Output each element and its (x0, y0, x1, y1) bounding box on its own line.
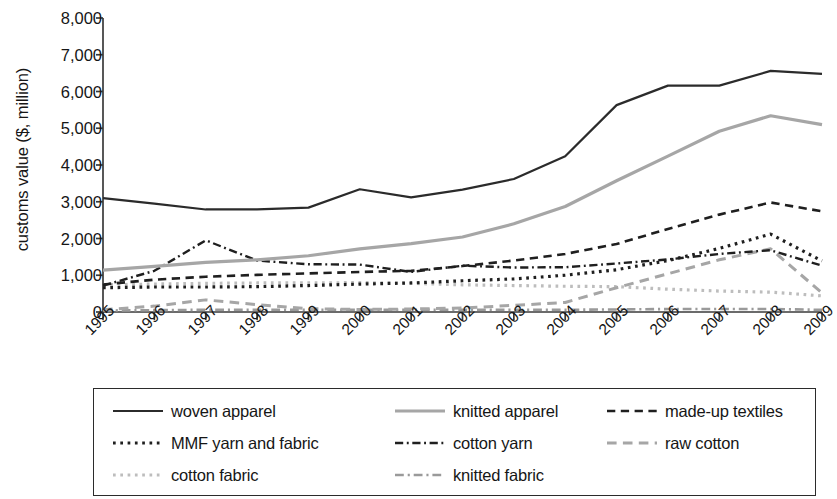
legend-row: MMF yarn and fabriccotton yarnraw cotton (94, 427, 815, 459)
x-axis-tick-label: 1997 (184, 302, 221, 339)
x-axis-tick-labels: 1995199619971998199920002001200220032004… (0, 0, 827, 390)
legend-label: knitted apparel (453, 402, 558, 421)
x-axis-tick-label: 2009 (800, 302, 837, 339)
legend-swatch-dashdot (394, 436, 446, 450)
x-axis-tick-label: 2003 (492, 302, 529, 339)
x-axis-tick-label: 2008 (749, 302, 786, 339)
legend-item-knitted-fabric: knitted fabric (394, 466, 606, 485)
legend-swatch-solid (112, 404, 164, 418)
legend-label: MMF yarn and fabric (171, 434, 319, 453)
chart-legend: woven apparelknitted apparelmade-up text… (93, 388, 816, 496)
legend-swatch-dotted (112, 436, 164, 450)
legend-label: cotton fabric (171, 466, 258, 485)
x-axis-tick-label: 1995 (81, 302, 118, 339)
legend-label: woven apparel (171, 402, 276, 421)
legend-item-mmf-yarn-and-fabric: MMF yarn and fabric (94, 434, 394, 453)
x-axis-tick-label: 2002 (441, 302, 478, 339)
x-axis-tick-label: 2007 (697, 302, 734, 339)
legend-item-woven-apparel: woven apparel (94, 402, 394, 421)
legend-label: cotton yarn (453, 434, 532, 453)
legend-item-raw-cotton: raw cotton (606, 434, 806, 453)
legend-swatch-dotted (112, 468, 164, 482)
x-axis-tick-label: 1996 (132, 302, 169, 339)
plot-area: 01,0002,0003,0004,0005,0006,0007,0008,00… (0, 0, 827, 390)
x-axis-tick-label: 1999 (286, 302, 323, 339)
y-axis-title: customs value ($, million) (13, 10, 32, 310)
legend-label: knitted fabric (453, 466, 544, 485)
x-axis-tick-label: 2005 (595, 302, 632, 339)
legend-item-knitted-apparel: knitted apparel (394, 402, 606, 421)
legend-row: cotton fabricknitted fabric (94, 459, 815, 491)
legend-row: woven apparelknitted apparelmade-up text… (94, 395, 815, 427)
legend-swatch-dashed (606, 404, 658, 418)
x-axis-tick-label: 2004 (543, 302, 580, 339)
legend-item-cotton-yarn: cotton yarn (394, 434, 606, 453)
legend-swatch-dashdot (394, 468, 446, 482)
legend-swatch-solid (394, 404, 446, 418)
x-axis-tick-label: 2000 (338, 302, 375, 339)
legend-label: raw cotton (665, 434, 739, 453)
x-axis-tick-label: 2001 (389, 302, 426, 339)
legend-label: made-up textiles (665, 402, 783, 421)
legend-swatch-dashed (606, 436, 658, 450)
legend-item-made-up-textiles: made-up textiles (606, 402, 806, 421)
x-axis-tick-label: 1998 (235, 302, 272, 339)
legend-item-cotton-fabric: cotton fabric (94, 466, 394, 485)
x-axis-tick-label: 2006 (646, 302, 683, 339)
